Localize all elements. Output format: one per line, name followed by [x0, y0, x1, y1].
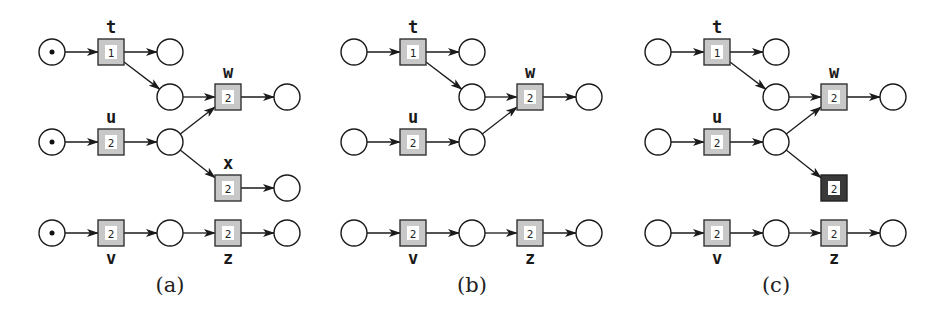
place-p_t_out[interactable]: [763, 39, 789, 65]
panel-caption: (b): [457, 273, 487, 297]
place-p_w_out[interactable]: [880, 84, 906, 110]
place-p_w_out[interactable]: [576, 84, 602, 110]
transition-z[interactable]: 2z: [821, 220, 847, 268]
transition-v[interactable]: 2v: [704, 220, 730, 268]
transition-weight: 2: [831, 228, 838, 241]
place-p_tw[interactable]: [763, 84, 789, 110]
panel-b: 1t2w2u2v2z(b): [341, 17, 602, 297]
place-p_vz[interactable]: [157, 220, 183, 246]
transition-x[interactable]: 2x: [215, 153, 241, 201]
transition-label: u: [408, 107, 418, 127]
token-icon: [50, 50, 55, 55]
place-p_x_out[interactable]: [274, 175, 300, 201]
transition-v[interactable]: 2v: [98, 220, 124, 268]
place-p_u_out[interactable]: [459, 129, 485, 155]
place-p_v_in[interactable]: [645, 220, 671, 246]
transition-weight: 1: [410, 47, 417, 60]
transition-label: t: [712, 17, 722, 37]
transition-v[interactable]: 2v: [400, 220, 426, 268]
transition-label: v: [408, 248, 418, 268]
arc-p_u_out-to-x: [786, 150, 821, 178]
place-p_z_out[interactable]: [880, 220, 906, 246]
transition-weight: 1: [108, 47, 115, 60]
transition-weight: 2: [527, 228, 534, 241]
transition-weight: 2: [225, 228, 232, 241]
arc-p_u_out-to-w: [180, 107, 215, 134]
place-p_u_out[interactable]: [157, 129, 183, 155]
transition-t[interactable]: 1t: [704, 17, 730, 65]
place-p_z_out[interactable]: [576, 220, 602, 246]
transition-weight: 2: [225, 183, 232, 196]
transition-u[interactable]: 2u: [98, 107, 124, 155]
place-p_t_in[interactable]: [645, 39, 671, 65]
transition-label: u: [712, 107, 722, 127]
transition-label: u: [106, 107, 116, 127]
place-p_t_in[interactable]: [341, 39, 367, 65]
panel-c: 1t2w2u22v2z(c): [645, 17, 906, 297]
transition-weight: 2: [714, 137, 721, 150]
transition-weight: 2: [831, 183, 838, 196]
transition-label: t: [408, 17, 418, 37]
place-p_v_in[interactable]: [341, 220, 367, 246]
transition-weight: 2: [831, 92, 838, 105]
transition-w[interactable]: 2w: [517, 62, 543, 110]
transition-w[interactable]: 2w: [821, 62, 847, 110]
transition-label: x: [223, 153, 233, 173]
transition-t[interactable]: 1t: [400, 17, 426, 65]
transition-weight: 2: [714, 228, 721, 241]
panel-a: 1t2w2u2x2v2z(a): [39, 17, 300, 297]
token-icon: [50, 231, 55, 236]
place-p_tw[interactable]: [157, 84, 183, 110]
token-icon: [50, 140, 55, 145]
transition-weight: 2: [108, 137, 115, 150]
transition-label: t: [106, 17, 116, 37]
transition-weight: 2: [410, 228, 417, 241]
place-p_t_out[interactable]: [157, 39, 183, 65]
transition-label: w: [525, 62, 536, 82]
transition-weight: 2: [108, 228, 115, 241]
transition-weight: 2: [527, 92, 534, 105]
place-p_vz[interactable]: [459, 220, 485, 246]
panels-root: 1t2w2u2x2v2z(a)1t2w2u2v2z(b)1t2w2u22v2z(…: [39, 17, 906, 297]
transition-label: z: [525, 248, 535, 268]
arc-t-to-p_tw: [426, 62, 462, 89]
panel-caption: (c): [762, 273, 790, 297]
transition-label: w: [829, 62, 840, 82]
transition-x[interactable]: 2: [821, 175, 847, 201]
panel-caption: (a): [156, 273, 185, 297]
arc-p_u_out-to-w: [786, 107, 821, 134]
arc-t-to-p_tw: [124, 62, 160, 89]
arc-p_u_out-to-w: [482, 107, 517, 134]
transition-w[interactable]: 2w: [215, 62, 241, 110]
transition-label: v: [106, 248, 116, 268]
place-p_vz[interactable]: [763, 220, 789, 246]
transition-weight: 2: [225, 92, 232, 105]
transition-u[interactable]: 2u: [400, 107, 426, 155]
arc-p_u_out-to-x: [180, 150, 215, 178]
place-p_u_out[interactable]: [763, 129, 789, 155]
place-p_u_in[interactable]: [645, 129, 671, 155]
transition-u[interactable]: 2u: [704, 107, 730, 155]
place-p_z_out[interactable]: [274, 220, 300, 246]
transition-weight: 1: [714, 47, 721, 60]
transition-label: v: [712, 248, 722, 268]
transition-label: z: [829, 248, 839, 268]
transition-t[interactable]: 1t: [98, 17, 124, 65]
arc-t-to-p_tw: [730, 62, 766, 89]
transition-weight: 2: [410, 137, 417, 150]
transition-z[interactable]: 2z: [215, 220, 241, 268]
place-p_t_out[interactable]: [459, 39, 485, 65]
place-p_w_out[interactable]: [274, 84, 300, 110]
transition-label: z: [223, 248, 233, 268]
place-p_tw[interactable]: [459, 84, 485, 110]
petri-net-figure: 1t2w2u2x2v2z(a)1t2w2u2v2z(b)1t2w2u22v2z(…: [0, 0, 940, 321]
place-p_u_in[interactable]: [341, 129, 367, 155]
transition-z[interactable]: 2z: [517, 220, 543, 268]
transition-label: w: [223, 62, 234, 82]
